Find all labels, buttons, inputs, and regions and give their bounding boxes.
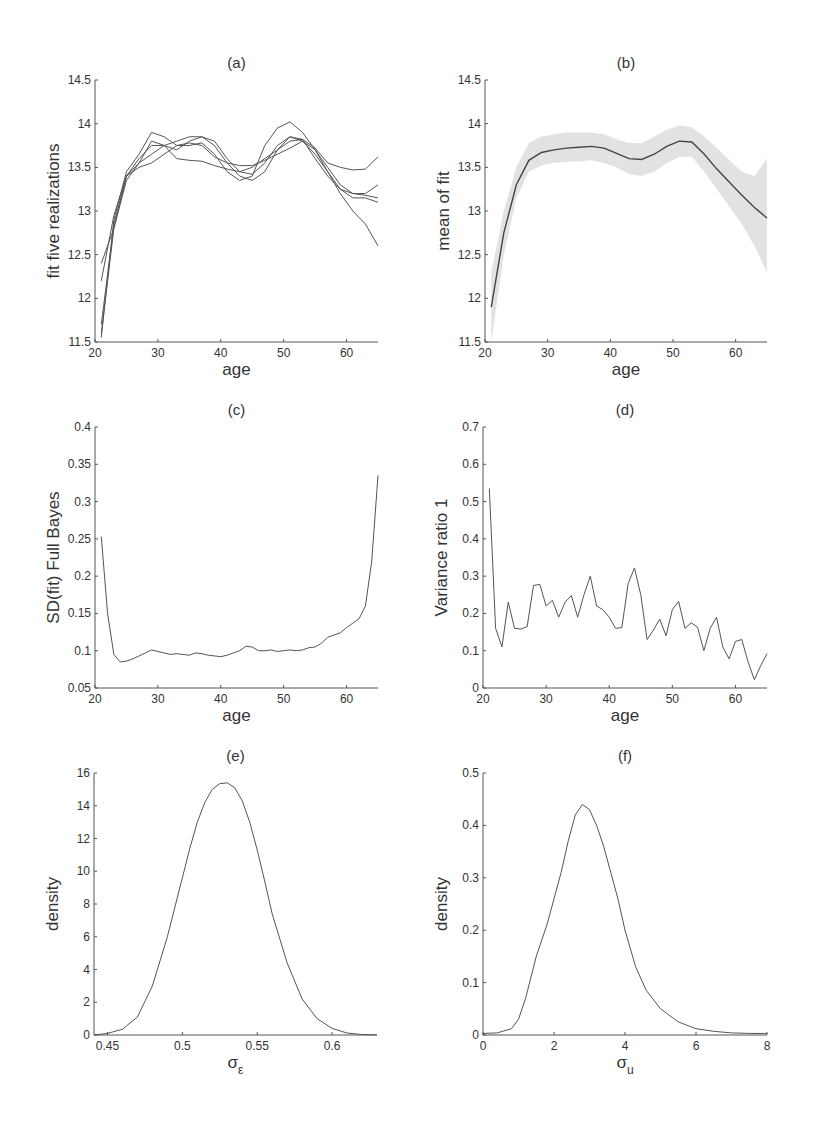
x-tick-label: 50 <box>666 692 680 706</box>
y-tick-label: 0.35 <box>68 457 92 471</box>
x-tick-label: 20 <box>478 346 492 360</box>
y-axis-label: fit five realizations <box>44 143 63 278</box>
x-axis-label: age <box>611 706 639 725</box>
y-tick-label: 8 <box>83 897 90 911</box>
panel-title: (a) <box>227 54 245 71</box>
y-tick-label: 0.6 <box>462 457 479 471</box>
y-tick-label: 13 <box>78 204 92 218</box>
x-tick-label: 20 <box>88 346 102 360</box>
x-axis-label: age <box>222 360 250 379</box>
series-line <box>101 475 378 661</box>
x-tick-label: 60 <box>340 692 354 706</box>
panel-title: (e) <box>226 747 244 764</box>
x-tick-label: 50 <box>277 346 291 360</box>
y-tick-label: 0.2 <box>74 569 91 583</box>
y-tick-label: 0.5 <box>462 766 479 780</box>
y-tick-label: 0.5 <box>462 495 479 509</box>
x-axis-label: age <box>612 360 640 379</box>
x-tick-label: 0.45 <box>96 1039 120 1053</box>
x-axis-label: σu <box>616 1053 633 1077</box>
y-tick-label: 14 <box>468 117 482 131</box>
y-tick-label: 0.4 <box>462 532 479 546</box>
y-tick-label: 0.1 <box>74 644 91 658</box>
x-tick-label: 30 <box>539 692 553 706</box>
series-line <box>101 139 378 263</box>
y-tick-label: 13.5 <box>68 160 92 174</box>
x-tick-label: 40 <box>214 346 228 360</box>
x-tick-label: 0.5 <box>174 1039 191 1053</box>
y-tick-label: 12.5 <box>458 248 482 262</box>
y-tick-label: 0.2 <box>462 606 479 620</box>
x-tick-label: 40 <box>603 692 617 706</box>
panel-f: 00.10.20.30.40.502468(f)σudensity <box>432 747 771 1077</box>
panel-title: (f) <box>618 747 632 764</box>
y-axis-label: density <box>432 877 451 931</box>
y-axis-label: density <box>43 877 62 931</box>
panel-a: 11.51212.51313.51414.52030405060(a)agefi… <box>44 54 378 379</box>
y-tick-label: 16 <box>77 766 91 780</box>
y-axis-label: Variance ratio 1 <box>432 499 451 617</box>
y-tick-label: 6 <box>83 930 90 944</box>
x-tick-label: 6 <box>693 1039 700 1053</box>
x-tick-label: 0.55 <box>246 1039 270 1053</box>
x-tick-label: 40 <box>604 346 618 360</box>
y-tick-label: 0.7 <box>462 420 479 434</box>
x-axis-label: σε <box>228 1053 245 1077</box>
y-axis-label: mean of fit <box>434 171 453 251</box>
x-tick-label: 0.6 <box>324 1039 341 1053</box>
y-tick-label: 0.25 <box>68 532 92 546</box>
x-tick-label: 20 <box>476 692 490 706</box>
y-tick-label: 0 <box>83 1028 90 1042</box>
x-tick-label: 2 <box>551 1039 558 1053</box>
y-tick-label: 10 <box>77 864 91 878</box>
y-tick-label: 0.15 <box>68 606 92 620</box>
y-tick-label: 14 <box>78 117 92 131</box>
y-tick-label: 12 <box>77 832 91 846</box>
series-line <box>94 783 377 1035</box>
x-tick-label: 20 <box>88 692 102 706</box>
y-tick-label: 0.1 <box>462 644 479 658</box>
series-line <box>101 137 378 281</box>
y-tick-label: 2 <box>83 995 90 1009</box>
x-tick-label: 30 <box>541 346 555 360</box>
y-tick-label: 4 <box>83 963 90 977</box>
panel-b: 11.51212.51313.51414.52030405060(b)ageme… <box>434 54 767 379</box>
y-tick-label: 0.2 <box>462 923 479 937</box>
y-tick-label: 0.1 <box>462 976 479 990</box>
y-tick-label: 0 <box>472 1028 479 1042</box>
y-tick-label: 14.5 <box>68 73 92 87</box>
x-tick-label: 30 <box>151 692 165 706</box>
y-tick-label: 0.3 <box>74 495 91 509</box>
panel-title: (b) <box>617 54 635 71</box>
y-tick-label: 0.4 <box>462 818 479 832</box>
x-tick-label: 0 <box>480 1039 487 1053</box>
y-tick-label: 13 <box>468 204 482 218</box>
y-tick-label: 12 <box>78 291 92 305</box>
series-line <box>489 489 767 680</box>
y-tick-label: 0.3 <box>462 569 479 583</box>
x-tick-label: 60 <box>729 346 743 360</box>
x-tick-label: 60 <box>729 692 743 706</box>
x-tick-label: 60 <box>340 346 354 360</box>
y-tick-label: 14 <box>77 799 91 813</box>
x-tick-label: 4 <box>622 1039 629 1053</box>
x-tick-label: 8 <box>764 1039 771 1053</box>
y-tick-label: 12.5 <box>68 248 92 262</box>
y-axis-label: SD(fit) Full Bayes <box>44 491 63 623</box>
x-tick-label: 50 <box>666 346 680 360</box>
panel-c: 0.050.10.150.20.250.30.350.42030405060(c… <box>44 401 378 725</box>
figure: 11.51212.51313.51414.52030405060(a)agefi… <box>0 0 813 1133</box>
y-tick-label: 14.5 <box>458 73 482 87</box>
y-tick-label: 0.3 <box>462 871 479 885</box>
series-line <box>483 804 767 1033</box>
series-line <box>101 141 378 324</box>
y-tick-label: 12 <box>468 291 482 305</box>
y-tick-label: 13.5 <box>458 160 482 174</box>
panel-title: (d) <box>616 401 634 418</box>
x-tick-label: 30 <box>151 346 165 360</box>
panel-d: 00.10.20.30.40.50.60.72030405060(d)ageVa… <box>432 401 767 725</box>
panel-title: (c) <box>228 401 246 418</box>
x-tick-label: 50 <box>277 692 291 706</box>
x-axis-label: age <box>222 706 250 725</box>
y-tick-label: 0.4 <box>74 420 91 434</box>
